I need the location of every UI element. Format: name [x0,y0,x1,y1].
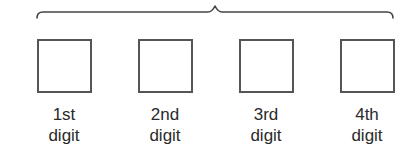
digit-slot-4 [340,39,395,93]
digit-word: digit [125,125,205,146]
ordinal-text: 4th [327,104,407,125]
digit-label-2: 2nd digit [125,104,205,146]
digit-word: digit [226,125,306,146]
ordinal-text: 2nd [125,104,205,125]
digit-word: digit [327,125,407,146]
curly-brace-icon [0,0,411,30]
digit-slot-1 [37,39,92,93]
digit-word: digit [24,125,104,146]
digit-slot-3 [239,39,294,93]
digit-label-1: 1st digit [24,104,104,146]
ordinal-text: 1st [24,104,104,125]
digit-label-4: 4th digit [327,104,407,146]
digit-label-3: 3rd digit [226,104,306,146]
digit-slot-2 [138,39,193,93]
ordinal-text: 3rd [226,104,306,125]
